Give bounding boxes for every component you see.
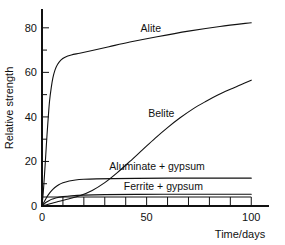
y-tick-label: 40 [25, 111, 37, 123]
series-label-ferrite-gypsum: Ferrite + gypsum [124, 180, 203, 192]
series-label-alite: Alite [141, 22, 162, 34]
y-axis-title: Relative strength [3, 67, 15, 150]
y-tick-label: 60 [25, 66, 37, 78]
chart-figure: 020406080050100AliteBeliteAluminate + gy… [0, 0, 285, 245]
y-tick-label: 20 [25, 155, 37, 167]
series-label-belite: Belite [148, 107, 174, 119]
y-tick-label: 80 [25, 22, 37, 34]
series-label-aluminate-gypsum: Aluminate + gypsum [109, 160, 205, 172]
x-tick-label: 100 [242, 211, 260, 223]
x-axis-title: Time/days [215, 228, 266, 240]
chart-plot-area: 020406080050100AliteBeliteAluminate + gy… [0, 0, 285, 245]
x-tick-label: 0 [39, 211, 45, 223]
x-tick-label: 50 [141, 211, 153, 223]
y-tick-label: 0 [31, 200, 37, 212]
